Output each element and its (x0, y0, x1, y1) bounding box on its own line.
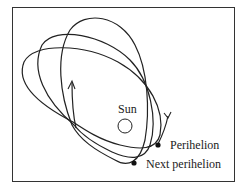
orbit-precession-diagram: Sun Perihelion Next perihelion (0, 0, 242, 190)
perihelion-label: Perihelion (170, 138, 219, 152)
frame (13, 8, 235, 182)
sun-label: Sun (118, 102, 137, 116)
sun-icon (118, 119, 132, 133)
next-perihelion-point (131, 160, 136, 165)
next-perihelion-label: Next perihelion (146, 157, 221, 171)
perihelion-point (155, 142, 160, 147)
